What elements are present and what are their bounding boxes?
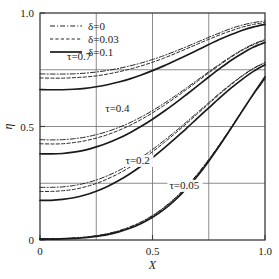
chart-figure: 00.51.000.51.0Xητ=0.7τ=0.4τ=0.2τ=0.05δ=0… — [0, 0, 279, 279]
curve-label: τ=0.4 — [105, 102, 130, 114]
y-tick-label: 1.0 — [20, 7, 34, 19]
x-tick-label: 1.0 — [258, 245, 272, 257]
legend-label-0: δ=0 — [88, 20, 105, 32]
x-axis-label: X — [148, 258, 157, 272]
chart-canvas: 00.51.000.51.0Xητ=0.7τ=0.4τ=0.2τ=0.05δ=0… — [0, 0, 279, 279]
x-tick-label: 0.5 — [146, 245, 160, 257]
legend-label-2: δ=0.1 — [88, 46, 113, 58]
curve-label: τ=0.05 — [169, 179, 199, 191]
y-tick-label: 0.5 — [20, 121, 34, 133]
y-axis-label: η — [1, 123, 15, 129]
x-tick-label: 0 — [37, 245, 43, 257]
y-tick-label: 0 — [29, 234, 35, 246]
legend-label-1: δ=0.03 — [88, 33, 119, 45]
curve-label: τ=0.2 — [126, 154, 150, 166]
